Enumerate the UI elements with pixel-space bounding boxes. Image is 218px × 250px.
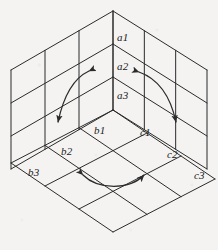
- cell-label-b1: b1: [94, 125, 105, 136]
- cell-label-a1: a1: [117, 32, 128, 43]
- isometric-figure: a1a2a3b1b2b3c1c2c3: [0, 0, 218, 250]
- grid-lines: [11, 11, 215, 232]
- cell-label-b2: b2: [61, 146, 72, 157]
- left-wall-arrow: [58, 71, 89, 122]
- cell-label-c1: c1: [140, 127, 151, 138]
- isometric-diagram-svg: [0, 0, 218, 250]
- cell-label-c3: c3: [194, 170, 205, 181]
- cell-label-c2: c2: [167, 149, 178, 160]
- cell-label-a3: a3: [117, 90, 128, 101]
- cell-label-a2: a2: [117, 61, 128, 72]
- cell-label-b3: b3: [28, 167, 39, 178]
